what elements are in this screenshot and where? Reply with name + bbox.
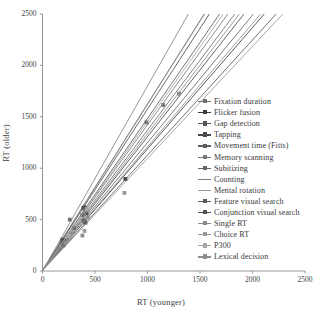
legend-marker-icon	[203, 243, 207, 247]
legend-swatch-icon	[197, 118, 212, 129]
legend-item-label: Gap detection	[214, 118, 260, 129]
legend-item-13[interactable]: P300	[197, 240, 322, 251]
x-tick-label: 0	[23, 275, 63, 284]
chart-legend: Fixation durationFlicker fusionGap detec…	[197, 96, 322, 262]
legend-item-label: Conjunction visual search	[214, 207, 300, 218]
legend-swatch-icon	[197, 240, 212, 251]
legend-marker-icon	[203, 232, 207, 236]
legend-item-6[interactable]: Subitizing	[197, 163, 322, 174]
legend-marker-icon	[203, 155, 207, 159]
legend-swatch-icon	[197, 207, 212, 218]
legend-item-2[interactable]: Gap detection	[197, 118, 322, 129]
data-point-marker	[81, 234, 85, 238]
legend-marker-icon	[203, 254, 207, 258]
legend-marker-icon	[203, 221, 207, 225]
legend-swatch-icon	[197, 185, 212, 196]
legend-item-10[interactable]: Conjunction visual search	[197, 207, 322, 218]
y-axis-title: RT (older)	[1, 113, 11, 173]
legend-item-label: Feature visual search	[214, 196, 284, 207]
data-point-marker	[161, 103, 165, 107]
series-7	[43, 14, 189, 271]
y-tick-label: 500	[0, 215, 37, 224]
series-10	[43, 14, 210, 270]
y-tick-label: 2000	[0, 60, 37, 69]
legend-item-label: Lexical decision	[214, 251, 268, 262]
series-4	[43, 14, 220, 271]
legend-swatch-icon	[197, 229, 212, 240]
legend-item-label: Subitizing	[214, 163, 248, 174]
data-point-marker	[83, 229, 87, 233]
x-tick-label: 500	[75, 275, 115, 284]
legend-item-11[interactable]: Single RT	[197, 218, 322, 229]
legend-item-3[interactable]: Tapping	[197, 129, 322, 140]
legend-swatch-icon	[197, 96, 212, 107]
legend-swatch-icon	[197, 218, 212, 229]
legend-item-label: Memory scanning	[214, 152, 274, 163]
data-point-marker	[86, 216, 90, 220]
legend-swatch-icon	[197, 174, 212, 185]
legend-item-label: Counting	[214, 174, 245, 185]
legend-item-1[interactable]: Flicker fusion	[197, 107, 322, 118]
x-tick-label: 2000	[233, 275, 273, 284]
legend-swatch-icon	[197, 251, 212, 262]
legend-swatch-icon	[197, 152, 212, 163]
legend-marker-icon	[203, 99, 207, 103]
x-axis-title: RT (younger)	[0, 297, 322, 307]
series-line	[43, 14, 189, 271]
legend-swatch-icon	[197, 107, 212, 118]
legend-line-icon	[198, 179, 211, 180]
legend-item-label: Single RT	[214, 218, 247, 229]
legend-marker-icon	[203, 110, 207, 114]
legend-marker-icon	[203, 166, 207, 170]
legend-item-label: Fixation duration	[214, 96, 271, 107]
legend-swatch-icon	[197, 196, 212, 207]
legend-item-14[interactable]: Lexical decision	[197, 251, 322, 262]
legend-item-label: Tapping	[214, 129, 241, 140]
legend-item-12[interactable]: Choice RT	[197, 229, 322, 240]
legend-marker-icon	[203, 132, 207, 136]
legend-item-8[interactable]: Mental rotation	[197, 185, 322, 196]
legend-item-label: Choice RT	[214, 229, 249, 240]
data-point-marker	[177, 92, 181, 96]
legend-marker-icon	[203, 199, 207, 203]
series-line	[43, 14, 220, 271]
x-tick-label: 1500	[180, 275, 220, 284]
y-tick-label: 2500	[0, 9, 37, 18]
legend-marker-icon	[203, 121, 207, 125]
data-point-marker	[123, 191, 127, 195]
brinley-plot-figure: 0500100015002000250005001000150020002500…	[0, 0, 322, 315]
legend-swatch-icon	[197, 129, 212, 140]
y-tick-label: 0	[0, 266, 37, 275]
legend-item-5[interactable]: Memory scanning	[197, 151, 322, 162]
series-line	[43, 14, 210, 270]
legend-line-icon	[198, 190, 211, 191]
legend-item-label: Movement time (Fitts)	[214, 140, 289, 151]
x-tick-label: 2500	[285, 275, 322, 284]
legend-item-9[interactable]: Feature visual search	[197, 196, 322, 207]
data-point-marker	[64, 241, 68, 245]
legend-item-label: P300	[214, 240, 231, 251]
legend-item-label: Flicker fusion	[214, 107, 260, 118]
legend-item-label: Mental rotation	[214, 185, 265, 196]
legend-item-7[interactable]: Counting	[197, 174, 322, 185]
legend-marker-icon	[203, 210, 207, 214]
legend-marker-icon	[203, 144, 207, 148]
legend-item-4[interactable]: Movement time (Fitts)	[197, 140, 322, 151]
legend-swatch-icon	[197, 163, 212, 174]
legend-swatch-icon	[197, 140, 212, 151]
data-point-marker	[85, 207, 89, 211]
legend-item-0[interactable]: Fixation duration	[197, 96, 322, 107]
x-tick-label: 1000	[128, 275, 168, 284]
